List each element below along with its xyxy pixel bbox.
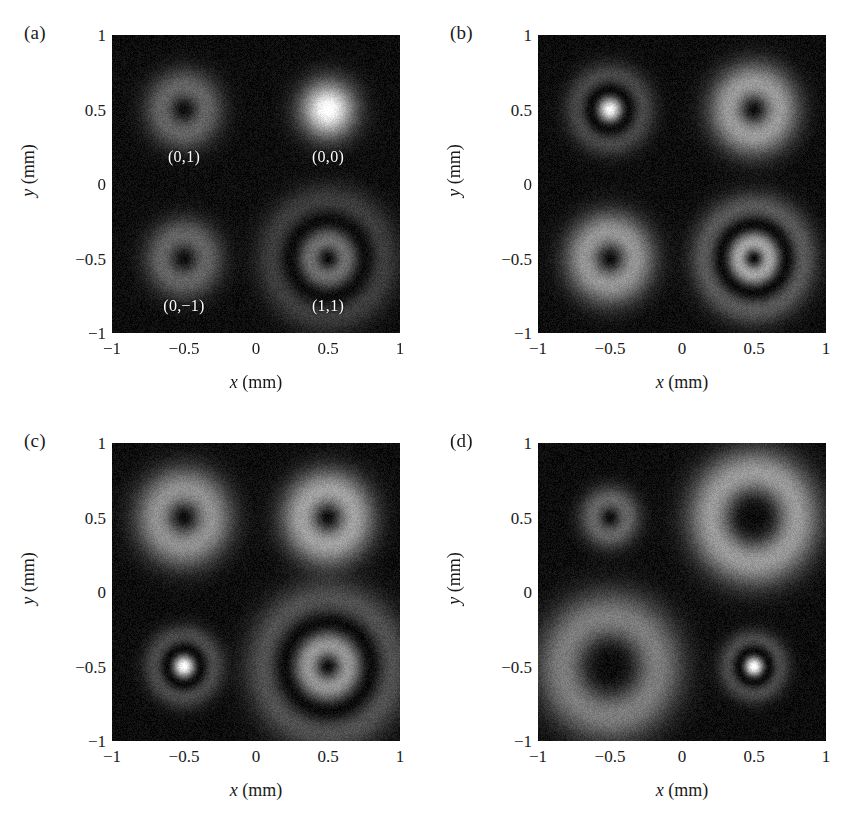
x-tick-labels-b: −1−0.500.51 [538,340,826,364]
y-axis-title-a: y (mm) [18,101,39,241]
y-tick-label: 1 [98,27,107,44]
y-tick-label: 0 [98,584,107,601]
x-tick-label: −0.5 [595,748,626,765]
y-tick-label: 0.5 [511,101,532,118]
x-axis-title-c: x (mm) [112,780,400,801]
y-axis-title-d: y (mm) [444,509,465,649]
y-axis-unit-a: (mm) [18,144,38,184]
panel-b: (b) 10.50−0.5−1 −1−0.500.51 x (mm) y (mm… [426,0,852,410]
x-tick-label: 0.5 [743,340,764,357]
plot-area-b [538,35,826,333]
y-tick-label: −0.5 [75,658,106,675]
y-tick-labels-c: 10.50−0.5−1 [52,443,106,741]
x-axis-title-a: x (mm) [112,372,400,393]
y-tick-label: 0.5 [85,101,106,118]
mode-image-b [538,35,826,333]
x-tick-label: −0.5 [595,340,626,357]
x-axis-unit-c: (mm) [242,780,282,800]
mode-image-a [112,35,400,333]
x-axis-unit-a: (mm) [242,372,282,392]
x-tick-label: 1 [822,340,831,357]
plot-area-c [112,443,400,741]
y-axis-unit-c: (mm) [18,552,38,592]
x-tick-label: 1 [396,340,405,357]
x-axis-unit-d: (mm) [668,780,708,800]
x-tick-label: 0.5 [743,748,764,765]
x-tick-label: 0 [678,340,687,357]
y-tick-label: 1 [524,27,533,44]
panel-letter-d: (d) [450,430,473,452]
y-tick-label: 1 [524,435,533,452]
y-tick-label: 0.5 [85,509,106,526]
x-axis-var-c: x [230,780,238,800]
y-tick-label: 0.5 [511,509,532,526]
panel-letter-b: (b) [450,22,473,44]
x-tick-label: 0.5 [317,748,338,765]
y-tick-label: −0.5 [75,250,106,267]
x-tick-labels-a: −1−0.500.51 [112,340,400,364]
panel-letter-a: (a) [24,22,46,44]
panel-d: (d) 10.50−0.5−1 −1−0.500.51 x (mm) y (mm… [426,408,852,818]
x-tick-label: −1 [529,340,547,357]
x-axis-title-d: x (mm) [538,780,826,801]
plot-area-a: (0,1) (0,0) (0,−1) (1,1) [112,35,400,333]
x-tick-label: 0 [252,340,261,357]
mode-image-d [538,443,826,741]
y-tick-labels-d: 10.50−0.5−1 [478,443,532,741]
figure-root: (a) (0,1) (0,0) (0,−1) (1,1) 10.50−0.5−1… [0,0,852,821]
y-axis-title-c: y (mm) [18,509,39,649]
plot-area-d [538,443,826,741]
x-axis-var-a: x [230,372,238,392]
x-tick-label: −1 [103,748,121,765]
mode-image-c [112,443,400,741]
x-tick-labels-c: −1−0.500.51 [112,748,400,772]
y-axis-var-c: y [18,597,38,605]
x-tick-label: −0.5 [169,340,200,357]
y-tick-label: 0 [98,176,107,193]
y-tick-label: 0 [524,584,533,601]
y-axis-var-b: y [444,189,464,197]
panel-letter-c: (c) [24,430,46,452]
x-tick-label: 1 [822,748,831,765]
x-tick-label: −0.5 [169,748,200,765]
x-axis-var-d: x [656,780,664,800]
y-tick-label: 1 [98,435,107,452]
x-axis-title-b: x (mm) [538,372,826,393]
y-axis-unit-d: (mm) [444,552,464,592]
x-tick-label: 0 [678,748,687,765]
x-tick-label: 1 [396,748,405,765]
x-tick-labels-d: −1−0.500.51 [538,748,826,772]
y-tick-label: −0.5 [501,250,532,267]
x-tick-label: 0 [252,748,261,765]
x-axis-var-b: x [656,372,664,392]
x-tick-label: 0.5 [317,340,338,357]
y-tick-labels-b: 10.50−0.5−1 [478,35,532,333]
y-tick-label: −0.5 [501,658,532,675]
x-tick-label: −1 [529,748,547,765]
x-axis-unit-b: (mm) [668,372,708,392]
y-tick-labels-a: 10.50−0.5−1 [52,35,106,333]
x-tick-label: −1 [103,340,121,357]
panel-a: (a) (0,1) (0,0) (0,−1) (1,1) 10.50−0.5−1… [0,0,426,410]
y-tick-label: 0 [524,176,533,193]
y-axis-var-a: y [18,189,38,197]
panel-c: (c) 10.50−0.5−1 −1−0.500.51 x (mm) y (mm… [0,408,426,818]
y-axis-title-b: y (mm) [444,101,465,241]
y-axis-unit-b: (mm) [444,144,464,184]
y-axis-var-d: y [444,597,464,605]
